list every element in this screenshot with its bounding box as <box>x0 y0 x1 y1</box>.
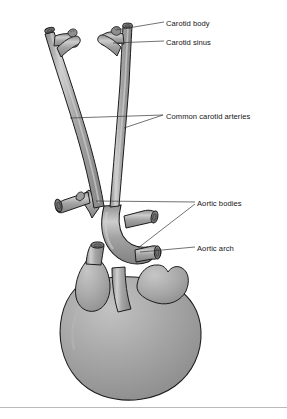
right-atrial-appendage <box>75 257 110 312</box>
label-carotid-body: Carotid body <box>166 19 210 28</box>
left-common-carotid-artery <box>45 32 104 208</box>
label-common-carotid-arteries: Common carotid arteries <box>166 112 250 121</box>
superior-vena-cava <box>86 242 104 265</box>
label-carotid-sinus: Carotid sinus <box>166 38 211 47</box>
leader-common-carotid-left <box>70 115 163 118</box>
leader-common-carotid-right <box>124 115 163 128</box>
label-aortic-arch: Aortic arch <box>197 244 234 253</box>
bottom-divider <box>0 407 287 408</box>
subclavian-stub-left <box>124 210 159 228</box>
carotid-body-nodule-left <box>68 29 77 37</box>
anatomy-illustration <box>0 0 287 419</box>
label-aortic-bodies: Aortic bodies <box>197 199 242 208</box>
carotid-body-nodule-right <box>111 27 121 36</box>
left-atrial-appendage <box>137 265 188 304</box>
